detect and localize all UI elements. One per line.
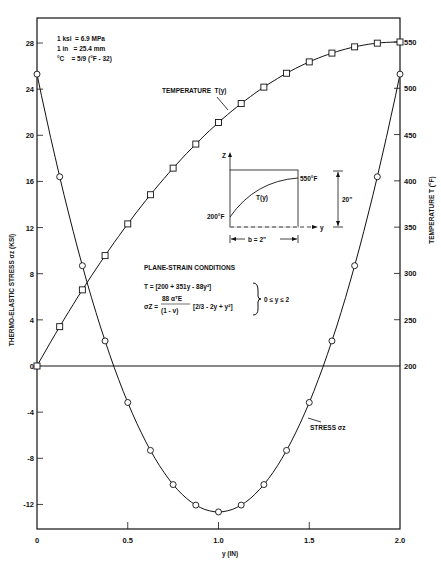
x-tick-label: 1.0 bbox=[213, 536, 223, 545]
left-tick-label: 16 bbox=[26, 177, 34, 186]
left-tick-label: 4 bbox=[30, 316, 35, 325]
left-tick-label: 24 bbox=[26, 85, 35, 94]
inset-y-label: y bbox=[320, 224, 324, 232]
brace bbox=[253, 283, 261, 315]
temperature-marker bbox=[57, 324, 63, 330]
left-tick-label: -8 bbox=[27, 454, 34, 463]
range-label: 0 ≤ y ≤ 2 bbox=[264, 296, 290, 304]
conversion-ksi: 1 ksi = 6.9 MPa bbox=[57, 35, 105, 42]
stress-marker bbox=[352, 263, 358, 269]
inset-diagram: Z y T(y) 200°F 550°F 20" b = 2" bbox=[207, 152, 352, 243]
x-axis-ticks: 00.51.01.52.0 bbox=[35, 522, 405, 545]
right-tick-label: 400 bbox=[404, 177, 417, 186]
stress-marker bbox=[170, 482, 176, 488]
temperature-marker bbox=[261, 84, 267, 90]
stress-marker bbox=[57, 174, 63, 180]
stress-leader bbox=[308, 418, 321, 422]
temperature-marker bbox=[170, 165, 176, 171]
equation-sigma-numerator: 88 αᵀE bbox=[162, 295, 183, 302]
right-tick-label: 250 bbox=[404, 316, 417, 325]
temperature-marker bbox=[216, 120, 222, 126]
temperature-marker bbox=[284, 70, 290, 76]
left-tick-label: 20 bbox=[26, 131, 34, 140]
inset-t-low: 200°F bbox=[207, 213, 224, 220]
inset-z-label: Z bbox=[222, 152, 226, 159]
left-axis-ticks: 2824201612840-4-8-12 bbox=[23, 39, 43, 509]
equation-temperature: T = [200 + 351y - 88y²] bbox=[144, 283, 211, 291]
temperature-marker bbox=[352, 44, 358, 50]
stress-marker bbox=[34, 71, 40, 77]
x-tick-label: 1.5 bbox=[304, 536, 314, 545]
right-tick-label: 300 bbox=[404, 269, 417, 278]
temperature-marker bbox=[306, 59, 312, 65]
x-axis-label: y (IN) bbox=[222, 550, 238, 558]
right-tick-label: 550 bbox=[404, 38, 417, 47]
temperature-marker bbox=[238, 101, 244, 107]
stress-marker bbox=[261, 482, 267, 488]
stress-series bbox=[34, 71, 403, 515]
inset-width: b = 2" bbox=[248, 236, 266, 243]
stress-label: STRESS σz bbox=[310, 424, 346, 431]
temperature-leader bbox=[217, 97, 228, 110]
conditions-title: PLANE-STRAIN CONDITIONS bbox=[144, 264, 236, 271]
temperature-marker bbox=[397, 39, 403, 45]
left-tick-label: -12 bbox=[23, 500, 34, 509]
stress-marker bbox=[147, 447, 153, 453]
temperature-marker bbox=[329, 50, 335, 56]
plot-frame bbox=[37, 18, 400, 529]
temperature-marker bbox=[125, 221, 131, 227]
temperature-marker bbox=[79, 287, 85, 293]
x-tick-label: 0.5 bbox=[123, 536, 133, 545]
right-tick-label: 450 bbox=[404, 131, 417, 140]
temperature-marker bbox=[147, 192, 153, 198]
right-tick-label: 350 bbox=[404, 223, 417, 232]
equation-sigma-rhs: [2/3 - 2y + y²] bbox=[193, 303, 233, 311]
left-tick-label: 12 bbox=[26, 224, 34, 233]
temperature-marker bbox=[193, 141, 199, 147]
stress-marker bbox=[374, 174, 380, 180]
conversion-in: 1 in = 25.4 mm bbox=[57, 45, 105, 52]
temperature-label: TEMPERATURE T(y) bbox=[162, 87, 227, 95]
stress-marker bbox=[216, 509, 222, 515]
left-axis-label: THERMO-ELASTIC STRESS σz (KSI) bbox=[8, 234, 16, 346]
left-tick-label: -4 bbox=[27, 408, 34, 417]
stress-marker bbox=[238, 502, 244, 508]
left-tick-label: 0 bbox=[30, 362, 34, 371]
temperature-marker bbox=[102, 253, 108, 259]
left-tick-label: 8 bbox=[30, 270, 34, 279]
x-tick-label: 2.0 bbox=[395, 536, 405, 545]
thermo-elastic-chart: 2824201612840-4-8-12 5505004504003503002… bbox=[0, 0, 441, 565]
inset-t-high: 550°F bbox=[300, 175, 317, 182]
equation-sigma-denominator: (1 - ν) bbox=[161, 307, 178, 315]
stress-marker bbox=[329, 338, 335, 344]
x-tick-label: 0 bbox=[35, 536, 39, 545]
inset-curve-label: T(y) bbox=[256, 194, 268, 202]
stress-marker bbox=[193, 502, 199, 508]
stress-marker bbox=[306, 399, 312, 405]
stress-marker bbox=[125, 399, 131, 405]
right-tick-label: 200 bbox=[404, 362, 417, 371]
temperature-marker bbox=[34, 363, 40, 369]
left-tick-label: 28 bbox=[26, 39, 34, 48]
stress-marker bbox=[79, 263, 85, 269]
stress-marker bbox=[284, 447, 290, 453]
inset-height: 20" bbox=[342, 196, 352, 203]
conversion-c: °C = 5/9 (°F - 32) bbox=[57, 55, 112, 63]
equation-sigma-lhs: σZ = bbox=[144, 303, 158, 310]
stress-marker bbox=[397, 71, 403, 77]
stress-marker bbox=[102, 338, 108, 344]
right-axis-label: TEMPERATURE T (°F) bbox=[428, 176, 436, 243]
right-tick-label: 500 bbox=[404, 84, 417, 93]
temperature-marker bbox=[374, 40, 380, 46]
